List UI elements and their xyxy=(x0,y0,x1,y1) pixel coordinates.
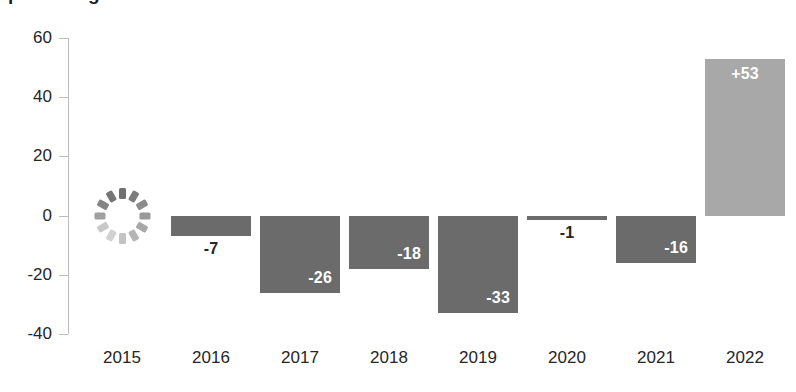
x-axis-tick-label: 2016 xyxy=(166,348,256,368)
x-axis-tick-label: 2018 xyxy=(344,348,434,368)
x-axis-tick-label: 2017 xyxy=(255,348,345,368)
chart-screenshot: percentage 6040200-20-40 -7-26-18-33-1-1… xyxy=(0,0,796,392)
x-axis-tick-label: 2020 xyxy=(522,348,612,368)
x-axis-tick-label: 2021 xyxy=(611,348,701,368)
x-axis-tick-label: 2022 xyxy=(700,348,790,368)
x-axis-tick-label: 2019 xyxy=(433,348,523,368)
x-axis-tick-label: 2015 xyxy=(77,348,167,368)
x-axis: 20152016201720182019202020212022 xyxy=(0,0,796,392)
